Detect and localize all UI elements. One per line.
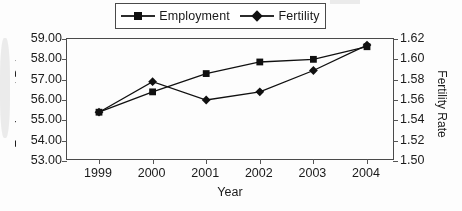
y-axis-left-tick [62, 161, 67, 162]
x-axis-tick-label: 2003 [289, 166, 335, 180]
y-axis-right-tick-label: 1.54 [400, 113, 434, 125]
x-axis-tick-label: 2000 [129, 166, 175, 180]
x-axis-tick [313, 159, 314, 164]
legend-label-employment: Employment [155, 9, 229, 23]
y-axis-left-tick-label: 56.00 [16, 93, 62, 105]
data-point-employment-2001[interactable] [203, 70, 210, 77]
y-axis-right-tick [393, 80, 398, 81]
plot-area [66, 38, 394, 160]
y-axis-left-tick-label: 54.00 [16, 134, 62, 146]
x-axis-title: Year [66, 185, 394, 199]
series-line-fertility [99, 45, 367, 112]
y-axis-right-tick-label: 1.52 [400, 134, 434, 146]
y-axis-left-tick-label: 58.00 [16, 52, 62, 64]
legend-item-fertility[interactable]: Fertility [240, 9, 319, 23]
data-point-fertility-2003[interactable] [309, 66, 318, 75]
y-axis-left-tick-labels: 59.0058.0057.0056.0055.0054.0053.00 [12, 38, 62, 160]
legend-diamond-marker-icon [240, 10, 274, 22]
y-axis-right-tick [393, 59, 398, 60]
series-canvas [67, 39, 395, 161]
x-axis-tick [99, 159, 100, 164]
y-axis-right-tick [393, 39, 398, 40]
legend-item-employment[interactable]: Employment [121, 9, 229, 23]
y-axis-right-title-wrap: Fertility Rate [432, 55, 452, 155]
data-point-fertility-2000[interactable] [148, 77, 157, 86]
x-axis-tick [260, 159, 261, 164]
y-axis-right-tick-label: 1.56 [400, 93, 434, 105]
y-axis-right-tick-labels: 1.621.601.581.561.541.521.50 [400, 38, 436, 160]
x-axis-tick [206, 159, 207, 164]
data-point-fertility-2001[interactable] [202, 96, 211, 105]
y-axis-left-tick-label: 57.00 [16, 73, 62, 85]
y-axis-left-tick-label: 59.00 [16, 32, 62, 44]
data-point-employment-2003[interactable] [310, 56, 317, 63]
x-axis-tick-label: 1999 [75, 166, 121, 180]
chart-legend: Employment Fertility [115, 3, 326, 29]
y-axis-left-tick [62, 80, 67, 81]
y-axis-left-tick-label: 53.00 [16, 154, 62, 166]
y-axis-right-tick [393, 100, 398, 101]
y-axis-right-tick-label: 1.62 [400, 32, 434, 44]
x-axis-tick [367, 159, 368, 164]
y-axis-right-tick [393, 141, 398, 142]
y-axis-left-tick [62, 141, 67, 142]
y-axis-right-tick-label: 1.50 [400, 154, 434, 166]
x-axis-tick-label: 2001 [182, 166, 228, 180]
y-axis-right-tick [393, 120, 398, 121]
y-axis-right-tick [393, 161, 398, 162]
x-axis-tick-label: 2004 [343, 166, 389, 180]
y-axis-left-tick [62, 100, 67, 101]
series-line-employment [99, 47, 367, 112]
chart-figure: Employment Fertility Employment Rate 59.… [0, 0, 462, 211]
y-axis-right-tick-label: 1.60 [400, 52, 434, 64]
y-axis-left-tick-label: 55.00 [16, 113, 62, 125]
data-point-employment-2000[interactable] [149, 88, 156, 95]
legend-square-marker-icon [121, 10, 155, 22]
y-axis-left-tick [62, 59, 67, 60]
y-axis-left-tick [62, 39, 67, 40]
y-axis-right-tick-label: 1.58 [400, 73, 434, 85]
scan-artifact [330, 0, 360, 4]
x-axis-tick-labels: 199920002001200220032004 [66, 166, 394, 182]
x-axis-tick-label: 2002 [236, 166, 282, 180]
legend-label-fertility: Fertility [274, 9, 319, 23]
y-axis-right-title: Fertility Rate [435, 59, 449, 149]
data-point-employment-2002[interactable] [256, 59, 263, 66]
data-point-fertility-2002[interactable] [255, 87, 264, 96]
x-axis-tick [153, 159, 154, 164]
y-axis-left-tick [62, 120, 67, 121]
